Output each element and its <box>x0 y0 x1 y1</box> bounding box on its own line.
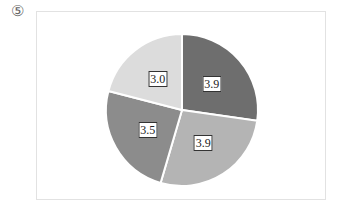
slice-value-label: 3.9 <box>202 76 221 92</box>
slice-value-label: 3.9 <box>194 135 213 151</box>
slice-value-label: 3.0 <box>148 71 167 87</box>
slice-value-label: 3.5 <box>138 122 157 138</box>
pie-chart <box>0 0 340 214</box>
